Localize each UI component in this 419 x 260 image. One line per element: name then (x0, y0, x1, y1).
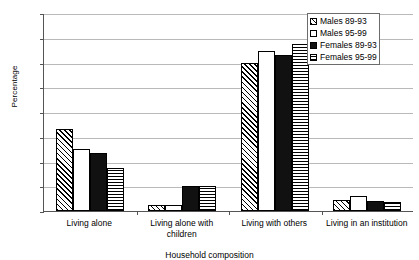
legend-item-males-95-99: Males 95-99 (309, 27, 377, 39)
legend-swatch-icon (310, 42, 317, 49)
bar (258, 51, 275, 211)
bar (292, 44, 309, 211)
bar (182, 186, 199, 211)
legend-label: Males 95-99 (320, 29, 367, 38)
x-tick-mark (137, 211, 138, 215)
x-category-label: Living alone (43, 218, 136, 239)
legend-item-males-89-93: Males 89-93 (309, 15, 377, 27)
legend-label: Males 89-93 (320, 17, 367, 26)
bar (148, 205, 165, 211)
legend-swatch-icon (310, 30, 317, 37)
chart-legend: Males 89-93 Males 95-99 Females 89-93 Fe… (307, 13, 380, 65)
x-tick-mark (322, 211, 323, 215)
legend-label: Females 89-93 (320, 41, 377, 50)
bar (333, 200, 350, 211)
legend-item-females-95-99: Females 95-99 (309, 51, 377, 63)
bar (56, 129, 73, 211)
legend-swatch-icon (310, 54, 317, 61)
legend-item-females-89-93: Females 89-93 (309, 39, 377, 51)
bar (367, 201, 384, 211)
x-category-label: Living alone with children (136, 218, 229, 239)
bar (165, 205, 182, 211)
x-tick-mark (229, 211, 230, 215)
x-category-label: Living in an institution (321, 218, 414, 239)
y-axis-title: Percentage (10, 47, 19, 127)
y-tick-mark (40, 212, 44, 213)
bar-group (136, 14, 228, 211)
bar (241, 63, 258, 212)
bar (107, 168, 124, 211)
bar (199, 186, 216, 211)
x-axis-title: Household composition (0, 250, 419, 260)
bar-group (44, 14, 136, 211)
x-category-label: Living with others (228, 218, 321, 239)
legend-swatch-icon (310, 18, 317, 25)
bar (275, 55, 292, 211)
bar (90, 153, 107, 211)
legend-label: Females 95-99 (320, 53, 377, 62)
x-axis-category-labels: Living aloneLiving alone with childrenLi… (43, 218, 413, 239)
bar (384, 202, 401, 211)
bar (350, 196, 367, 211)
bar (73, 149, 90, 211)
